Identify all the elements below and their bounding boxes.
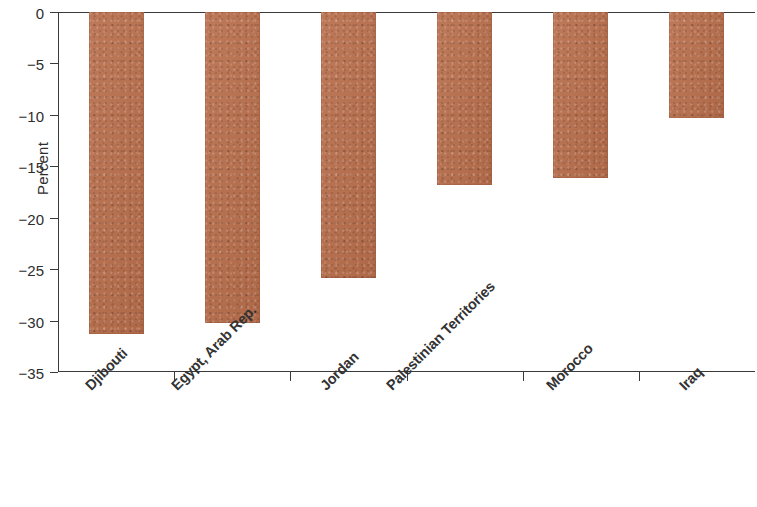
x-tick	[523, 372, 524, 381]
zero-baseline	[58, 12, 755, 13]
y-tick-label: −5	[27, 56, 44, 73]
plot-area: 0−5−10−15−20−25−30−35	[58, 12, 755, 372]
bar	[437, 12, 492, 185]
y-tick: −15	[50, 166, 58, 167]
bar	[321, 12, 376, 278]
bar	[669, 12, 724, 118]
y-tick: −20	[50, 218, 58, 219]
x-tick	[639, 372, 640, 381]
bar	[89, 12, 144, 334]
bar-chart: Percent 0−5−10−15−20−25−30−35 DjiboutiEg…	[0, 0, 757, 507]
y-tick-label: −30	[19, 313, 44, 330]
y-axis-line	[58, 12, 59, 372]
x-tick	[290, 372, 291, 381]
y-tick-label: −25	[19, 262, 44, 279]
y-tick-label: −15	[19, 159, 44, 176]
y-tick: −30	[50, 321, 58, 322]
bar	[205, 12, 260, 323]
y-tick-label: −20	[19, 210, 44, 227]
y-tick-label: −10	[19, 107, 44, 124]
y-tick: −35	[50, 372, 58, 373]
y-tick: −25	[50, 269, 58, 270]
bar	[553, 12, 608, 178]
y-tick-label: −35	[19, 365, 44, 382]
y-tick-label: 0	[36, 5, 44, 22]
y-tick: −5	[50, 63, 58, 64]
y-tick: −10	[50, 115, 58, 116]
y-tick: 0	[50, 12, 58, 13]
